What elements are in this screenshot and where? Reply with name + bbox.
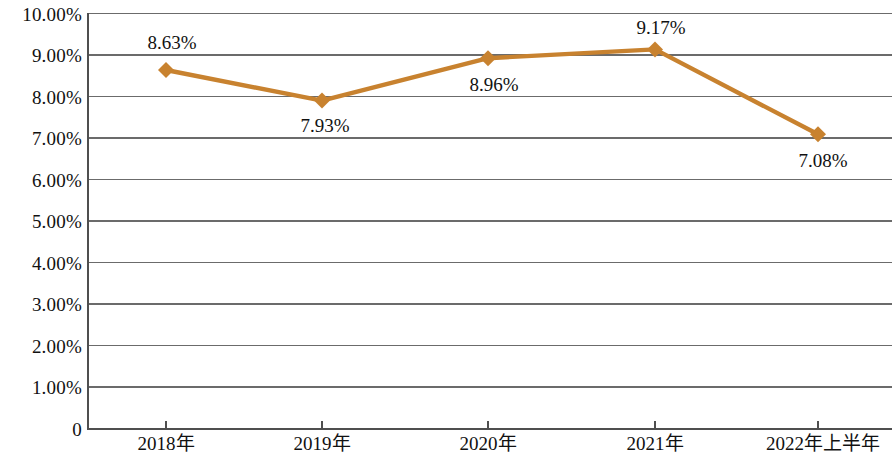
x-tick-label: 2021年 <box>627 433 684 454</box>
x-tick-label: 2022年上半年 <box>766 433 880 454</box>
x-axis-labels: 2018年 2019年 2020年 2021年 2022年上半年 <box>0 0 892 455</box>
x-tick-label: 2020年 <box>460 433 517 454</box>
x-tick-label: 2019年 <box>294 433 351 454</box>
line-chart: 10.00% 9.00% 8.00% 7.00% 6.00% 5.00% 4.0… <box>0 0 892 455</box>
x-tick-label: 2018年 <box>138 433 195 454</box>
